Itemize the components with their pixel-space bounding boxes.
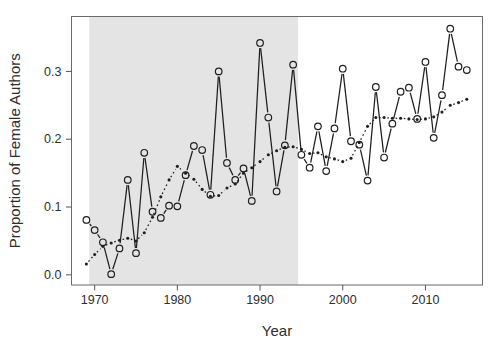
annual-data-point	[331, 125, 338, 132]
annual-data-point	[406, 84, 413, 91]
female-authors-line-chart: 197019801990200020100.00.10.20.3 Year Pr…	[0, 0, 503, 354]
annual-data-point	[463, 67, 470, 74]
trend-line-segment	[346, 159, 348, 160]
trend-dot	[449, 104, 452, 107]
trend-dot	[399, 117, 402, 120]
annual-data-point	[83, 217, 90, 224]
annual-data-point	[430, 135, 437, 142]
trend-line-segment	[361, 129, 366, 140]
annual-line-segment	[426, 67, 433, 133]
trend-line-segment	[461, 100, 463, 101]
annual-line-segment	[319, 131, 325, 166]
trend-dot	[209, 195, 212, 198]
trend-dot	[217, 194, 220, 197]
annual-data-point	[455, 63, 462, 70]
trend-dot	[416, 118, 419, 121]
trend-dot	[366, 125, 369, 128]
y-axis-title: Proportion of Female Authors	[6, 53, 23, 248]
annual-data-point	[348, 138, 355, 145]
annual-data-point	[447, 25, 454, 32]
trend-dot	[93, 253, 96, 256]
trend-dot	[275, 149, 278, 152]
trend-line-segment	[444, 107, 447, 110]
trend-dot	[341, 160, 344, 163]
annual-data-point	[373, 84, 380, 91]
x-tick-label: 2000	[329, 293, 357, 307]
annual-line-segment	[451, 34, 457, 62]
annual-data-point	[389, 120, 396, 127]
trend-dot	[465, 98, 468, 101]
trend-line-segment	[429, 118, 431, 119]
annual-data-point	[364, 177, 371, 184]
trend-dot	[225, 186, 228, 189]
annual-line-segment	[335, 74, 342, 123]
trend-dot	[292, 145, 295, 148]
annual-line-segment	[360, 150, 366, 176]
trend-dot	[168, 178, 171, 181]
annual-line-segment	[385, 129, 391, 153]
annual-data-point	[298, 152, 305, 159]
x-tick-label: 1990	[246, 293, 274, 307]
trend-dot	[176, 165, 179, 168]
trend-line-segment	[304, 151, 307, 152]
annual-line-segment	[311, 131, 317, 162]
trend-line-segment	[329, 158, 331, 159]
trend-dot	[192, 178, 195, 181]
annual-line-segment	[418, 67, 425, 114]
annual-data-point	[323, 168, 330, 175]
trend-dot	[407, 117, 410, 120]
trend-dot	[383, 116, 386, 119]
trend-dot	[143, 231, 146, 234]
annual-line-segment	[368, 92, 375, 175]
annual-data-point	[339, 65, 346, 72]
annual-data-point	[439, 92, 446, 99]
trend-dot	[349, 157, 352, 160]
trend-dot	[316, 151, 319, 154]
x-tick-label: 1970	[81, 293, 109, 307]
annual-data-point	[381, 154, 388, 161]
plot-area: 197019801990200020100.00.10.20.3	[44, 17, 482, 307]
annual-line-segment	[343, 74, 350, 136]
trend-line-segment	[453, 104, 455, 105]
annual-line-segment	[327, 133, 333, 166]
y-tick-label: 0.0	[44, 268, 61, 282]
x-tick-label: 1980	[163, 293, 191, 307]
y-tick-label: 0.1	[44, 200, 61, 214]
annual-line-segment	[443, 34, 450, 90]
x-tick-label: 2010	[412, 293, 440, 307]
y-tick-label: 0.2	[44, 132, 61, 146]
chart-figure: 197019801990200020100.00.10.20.3 Year Pr…	[0, 0, 503, 354]
trend-dot	[374, 116, 377, 119]
annual-line-segment	[410, 93, 416, 114]
trend-dot	[333, 157, 336, 160]
annual-line-segment	[376, 92, 383, 152]
annual-line-segment	[304, 159, 307, 163]
trend-dot	[201, 188, 204, 191]
trend-dot	[440, 111, 443, 114]
annual-line-segment	[435, 100, 441, 133]
trend-dot	[258, 160, 261, 163]
trend-dot	[457, 101, 460, 104]
annual-data-point	[306, 164, 313, 171]
trend-dot	[267, 153, 270, 156]
trend-line-segment	[338, 160, 340, 161]
trend-dot	[85, 262, 88, 265]
annual-data-point	[315, 123, 322, 130]
trend-dot	[126, 237, 129, 240]
trend-dot	[159, 195, 162, 198]
trend-dot	[325, 155, 328, 158]
annual-data-point	[422, 59, 429, 66]
trend-dot	[110, 241, 113, 244]
trend-dot	[424, 117, 427, 120]
y-tick-label: 0.3	[44, 65, 61, 79]
x-axis-title: Year	[262, 322, 292, 339]
trend-dot	[151, 216, 154, 219]
annual-line-segment	[394, 97, 400, 119]
trend-dot	[432, 115, 435, 118]
annual-data-point	[397, 88, 404, 95]
trend-dot	[308, 152, 311, 155]
